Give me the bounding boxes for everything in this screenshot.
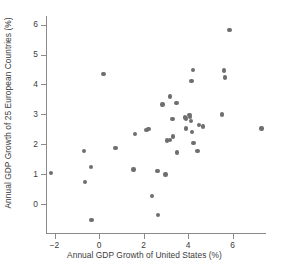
x-axis-label-text: Annual GDP Growth of United States (%) (67, 250, 222, 260)
data-point (222, 68, 226, 72)
data-point (160, 102, 164, 106)
x-tick-label: 6 (223, 240, 243, 250)
x-tick-label: 4 (178, 240, 198, 250)
data-point (184, 126, 188, 130)
data-point (155, 169, 159, 173)
y-tick-label: 1 (24, 169, 38, 179)
x-tick-mark (99, 234, 100, 239)
data-point (189, 79, 193, 83)
y-tick-label: 5 (24, 49, 38, 59)
y-tick-mark (41, 114, 46, 115)
y-tick-label: 4 (24, 79, 38, 89)
data-point (191, 68, 195, 72)
data-point (150, 194, 154, 198)
x-tick-mark (233, 234, 234, 239)
data-point (195, 149, 199, 153)
data-point (133, 132, 137, 136)
data-point (163, 172, 167, 176)
y-tick-mark (41, 55, 46, 56)
data-point (223, 75, 227, 79)
data-point (189, 119, 193, 123)
data-point (101, 72, 105, 76)
data-point (227, 28, 231, 32)
data-point (49, 171, 53, 175)
data-point (170, 117, 174, 121)
y-axis-line (46, 16, 47, 234)
data-point (113, 146, 117, 150)
data-point (83, 180, 87, 184)
y-tick-label: 2 (24, 139, 38, 149)
x-tick-mark (144, 234, 145, 239)
x-tick-label: −2 (45, 240, 65, 250)
plot-area: 0123456 −20246 (0, 0, 289, 277)
y-tick-mark (41, 25, 46, 26)
data-point (259, 126, 263, 130)
data-point (144, 128, 148, 132)
y-tick-mark (41, 84, 46, 85)
data-point (168, 94, 172, 98)
data-point (201, 124, 205, 128)
data-point (220, 112, 224, 116)
x-axis-label: Annual GDP Growth of United States (%) (0, 250, 289, 260)
data-point (190, 130, 194, 134)
data-point (174, 101, 178, 105)
y-tick-mark (41, 204, 46, 205)
y-tick-label: 0 (24, 199, 38, 209)
data-point (171, 134, 175, 138)
x-tick-label: 2 (134, 240, 154, 250)
x-tick-mark (55, 234, 56, 239)
data-point (156, 213, 160, 217)
data-point (131, 167, 135, 171)
x-tick-label: 0 (89, 240, 109, 250)
y-tick-mark (41, 144, 46, 145)
data-point (175, 150, 179, 154)
y-tick-mark (41, 174, 46, 175)
data-point (89, 218, 93, 222)
data-point (82, 149, 86, 153)
data-point (191, 141, 195, 145)
x-tick-mark (188, 234, 189, 239)
data-point (89, 165, 93, 169)
y-tick-label: 6 (24, 19, 38, 29)
scatter-plot-figure: Annual GDP Growth of 25 European Countri… (0, 0, 289, 277)
y-tick-label: 3 (24, 109, 38, 119)
